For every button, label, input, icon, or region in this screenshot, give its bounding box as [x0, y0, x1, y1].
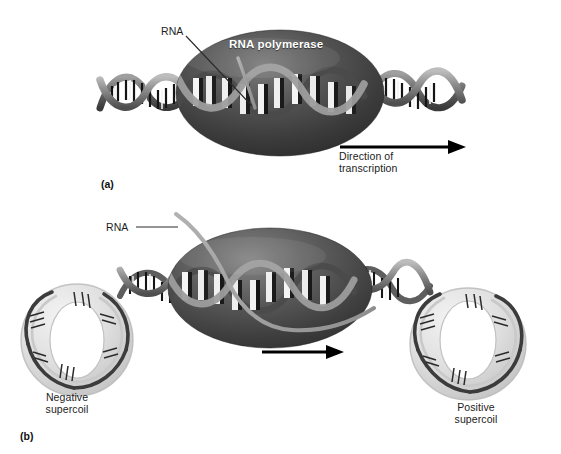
panel-label-b: (b) — [20, 430, 33, 442]
positive-supercoil-loop — [410, 288, 526, 400]
panel-b-artwork — [21, 214, 526, 400]
positive-supercoil-line-1: Positive — [457, 401, 495, 413]
rna-label-a: RNA — [161, 26, 183, 38]
positive-supercoil-label: Positivesupercoil — [428, 402, 524, 425]
negative-supercoil-line-2: supercoil — [46, 403, 89, 415]
positive-supercoil-line-2: supercoil — [455, 413, 498, 425]
rna-label-b: RNA — [106, 222, 128, 234]
direction-line-1: Direction of — [339, 150, 393, 162]
negative-supercoil-label: Negativesupercoil — [19, 392, 115, 415]
rna-polymerase-ellipse-b — [168, 228, 372, 348]
negative-supercoil-line-1: Negative — [46, 391, 88, 403]
direction-of-transcription-label: Direction oftranscription — [339, 151, 398, 174]
transcription-supercoiling-figure: RNA RNA polymerase Direction oftranscrip… — [0, 0, 561, 454]
figure-artwork — [0, 0, 561, 454]
panel-label-a: (a) — [101, 178, 114, 190]
rna-polymerase-label: RNA polymerase — [229, 38, 323, 50]
direction-line-2: transcription — [339, 162, 398, 174]
negative-supercoil-loop — [21, 284, 133, 396]
